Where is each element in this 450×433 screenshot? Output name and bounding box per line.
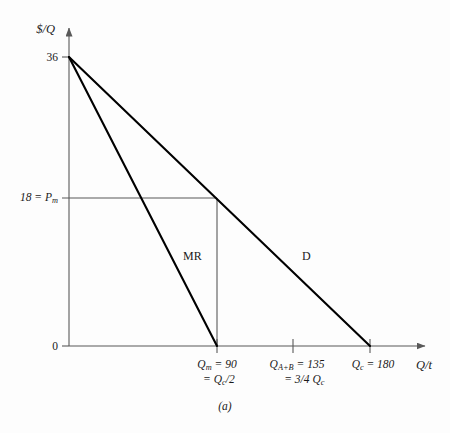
curve-label-mr: MR bbox=[183, 250, 202, 263]
demand-curve bbox=[69, 57, 370, 346]
y-tick-label-36: 36 bbox=[47, 51, 59, 64]
x-axis-title: Q/t bbox=[416, 358, 432, 372]
x-tick-label-qm: Qm = 90 = Qc/2 bbox=[197, 358, 236, 387]
marginal-revenue-curve bbox=[69, 57, 217, 346]
figure-caption: (a) bbox=[218, 400, 231, 413]
x-tick-label-qc: Qc = 180 bbox=[352, 358, 395, 373]
figure-container: $/Q 36 18 = Pm 0 Qm = 90 = Qc/2 QA+B = 1… bbox=[0, 0, 450, 433]
curve-label-d: D bbox=[302, 250, 311, 263]
x-tick-label-qab: QA+B = 135 = 3/4 Qc bbox=[270, 358, 325, 387]
y-axis-title: $/Q bbox=[36, 22, 55, 36]
y-tick-label-0: 0 bbox=[52, 340, 58, 353]
y-tick-label-pm: 18 = Pm bbox=[20, 191, 58, 206]
